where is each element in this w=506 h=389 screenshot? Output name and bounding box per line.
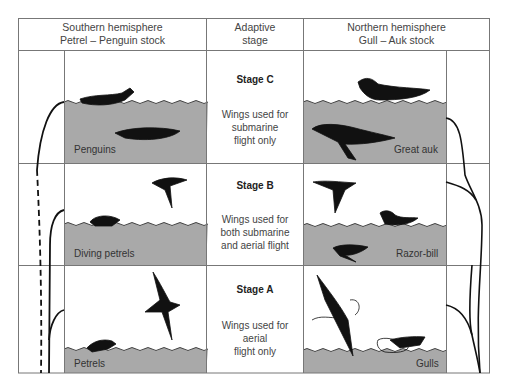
petrel-flying-icon: [145, 272, 180, 340]
razorbill-flying-icon: [313, 181, 356, 213]
bird-outlines: [312, 300, 408, 353]
gull-flying-icon: [317, 275, 353, 356]
diving-petrel-flying-icon: [152, 178, 187, 208]
auk-surface-icon: [358, 78, 430, 100]
label-gulls: Gulls: [416, 358, 439, 369]
lineage-petrel-branch: [49, 310, 64, 340]
stage-b-title: Stage B: [207, 180, 303, 191]
lineage-auk-branch: [446, 118, 482, 373]
lineage-left: [37, 102, 64, 373]
lineage-dashed-penguin: [37, 170, 41, 373]
header-southern: Southern hemispherePetrel – Penguin stoc…: [19, 18, 206, 50]
header-northern: Northern hemisphereGull – Auk stock: [304, 18, 489, 50]
label-penguins: Penguins: [74, 144, 116, 155]
lineage-diving-petrel-branch: [49, 210, 64, 373]
stage-a-desc: Wings used for aerial flight only: [207, 319, 303, 358]
label-razor-bill: Razor-bill: [396, 248, 438, 259]
stage-c-desc: Wings used for submarine flight only: [207, 108, 303, 147]
stage-c-title: Stage C: [207, 74, 303, 85]
label-diving-petrels: Diving petrels: [74, 248, 135, 259]
razorbill-surface-icon: [380, 211, 418, 225]
gull-surface-icon: [390, 337, 425, 348]
lineage-right: [446, 118, 482, 373]
label-great-auk: Great auk: [394, 144, 438, 155]
lineage-penguin-branch: [37, 102, 64, 170]
lineage-gull-branch: [446, 305, 480, 373]
stage-b-desc: Wings used for both submarine and aerial…: [207, 213, 303, 252]
header-adaptive-stage: Adaptivestage: [207, 18, 303, 50]
penguin-surface-icon: [80, 88, 134, 105]
label-petrels: Petrels: [74, 358, 105, 369]
lineage-gull-line: [470, 265, 472, 335]
stage-a-title: Stage A: [207, 284, 303, 295]
